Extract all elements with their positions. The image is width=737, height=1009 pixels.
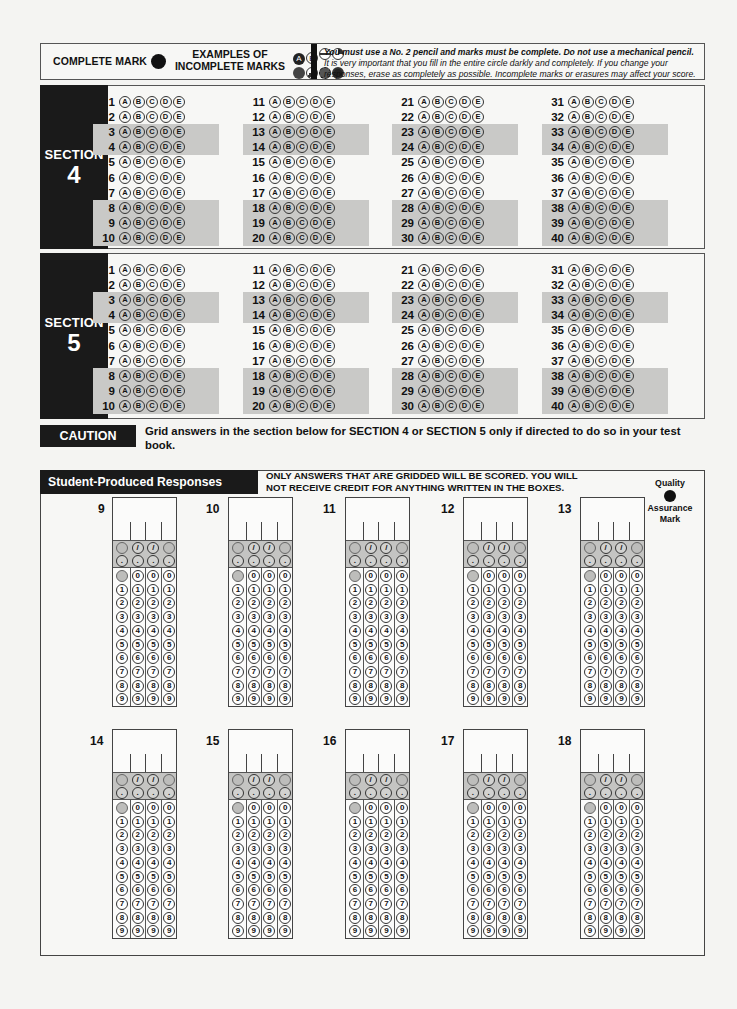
- digit-bubble-7[interactable]: 7: [467, 666, 479, 678]
- answer-bubble-b[interactable]: B: [582, 217, 594, 229]
- answer-bubble-a[interactable]: A: [269, 400, 281, 412]
- answer-bubble-e[interactable]: E: [472, 324, 484, 336]
- answer-bubble-d[interactable]: D: [310, 217, 322, 229]
- digit-bubble-9[interactable]: 9: [514, 925, 526, 937]
- answer-bubble-c[interactable]: C: [146, 294, 158, 306]
- digit-bubble-6[interactable]: 6: [349, 652, 361, 664]
- answer-bubble-d[interactable]: D: [609, 355, 621, 367]
- digit-bubble-0[interactable]: 0: [147, 802, 159, 814]
- answer-bubble-c[interactable]: C: [296, 355, 308, 367]
- digit-bubble-7[interactable]: 7: [132, 898, 144, 910]
- answer-bubble-b[interactable]: B: [582, 126, 594, 138]
- digit-bubble-2[interactable]: 2: [116, 597, 128, 609]
- digit-bubble-4[interactable]: 4: [584, 857, 596, 869]
- digit-bubble-5[interactable]: 5: [396, 871, 408, 883]
- digit-bubble-0[interactable]: 0: [365, 802, 377, 814]
- digit-bubble-8[interactable]: 8: [365, 912, 377, 924]
- answer-bubble-a[interactable]: A: [269, 324, 281, 336]
- digit-bubble-3[interactable]: 3: [279, 611, 291, 623]
- fraction-bubble[interactable]: /: [365, 542, 377, 554]
- digit-bubble-3[interactable]: 3: [498, 843, 510, 855]
- digit-bubble-1[interactable]: 1: [263, 816, 275, 828]
- answer-bubble-e[interactable]: E: [472, 355, 484, 367]
- digit-bubble-3[interactable]: 3: [147, 843, 159, 855]
- answer-bubble-e[interactable]: E: [173, 187, 185, 199]
- digit-bubble-1[interactable]: 1: [279, 584, 291, 596]
- digit-bubble-5[interactable]: 5: [584, 639, 596, 651]
- answer-bubble-e[interactable]: E: [173, 111, 185, 123]
- digit-bubble-5[interactable]: 5: [116, 639, 128, 651]
- answer-bubble-a[interactable]: A: [568, 96, 580, 108]
- answer-bubble-c[interactable]: C: [445, 96, 457, 108]
- answer-bubble-b[interactable]: B: [283, 187, 295, 199]
- digit-bubble-2[interactable]: 2: [631, 829, 643, 841]
- answer-bubble-a[interactable]: A: [119, 324, 131, 336]
- decimal-bubble[interactable]: .: [380, 555, 392, 567]
- answer-bubble-b[interactable]: B: [283, 309, 295, 321]
- digit-bubble-2[interactable]: 2: [615, 829, 627, 841]
- fraction-bubble[interactable]: /: [248, 774, 260, 786]
- answer-bubble-c[interactable]: C: [296, 187, 308, 199]
- digit-bubble-8[interactable]: 8: [615, 912, 627, 924]
- digit-bubble-9[interactable]: 9: [584, 925, 596, 937]
- digit-bubble-9[interactable]: 9: [600, 925, 612, 937]
- answer-bubble-b[interactable]: B: [582, 309, 594, 321]
- digit-bubble-5[interactable]: 5: [232, 639, 244, 651]
- answer-bubble-b[interactable]: B: [432, 385, 444, 397]
- answer-bubble-b[interactable]: B: [283, 340, 295, 352]
- answer-bubble-e[interactable]: E: [472, 111, 484, 123]
- digit-bubble-4[interactable]: 4: [584, 625, 596, 637]
- answer-bubble-c[interactable]: C: [595, 294, 607, 306]
- answer-bubble-d[interactable]: D: [609, 294, 621, 306]
- answer-bubble-a[interactable]: A: [418, 340, 430, 352]
- digit-bubble-2[interactable]: 2: [600, 597, 612, 609]
- answer-bubble-b[interactable]: B: [133, 111, 145, 123]
- answer-bubble-e[interactable]: E: [323, 172, 335, 184]
- digit-bubble-8[interactable]: 8: [396, 680, 408, 692]
- digit-bubble-7[interactable]: 7: [631, 666, 643, 678]
- digit-bubble-5[interactable]: 5: [263, 871, 275, 883]
- digit-bubble-8[interactable]: 8: [380, 680, 392, 692]
- answer-bubble-c[interactable]: C: [296, 96, 308, 108]
- digit-bubble-4[interactable]: 4: [279, 625, 291, 637]
- answer-bubble-b[interactable]: B: [283, 217, 295, 229]
- digit-bubble-3[interactable]: 3: [349, 611, 361, 623]
- answer-bubble-e[interactable]: E: [472, 217, 484, 229]
- digit-bubble-4[interactable]: 4: [263, 857, 275, 869]
- digit-bubble-3[interactable]: 3: [380, 843, 392, 855]
- decimal-bubble[interactable]: .: [116, 555, 128, 567]
- answer-bubble-a[interactable]: A: [568, 385, 580, 397]
- digit-bubble-8[interactable]: 8: [498, 912, 510, 924]
- answer-bubble-e[interactable]: E: [622, 141, 634, 153]
- answer-bubble-c[interactable]: C: [445, 111, 457, 123]
- fraction-bubble[interactable]: /: [248, 542, 260, 554]
- digit-bubble-7[interactable]: 7: [498, 898, 510, 910]
- answer-bubble-c[interactable]: C: [595, 279, 607, 291]
- digit-bubble-1[interactable]: 1: [584, 816, 596, 828]
- digit-bubble-1[interactable]: 1: [163, 584, 175, 596]
- digit-bubble-4[interactable]: 4: [467, 857, 479, 869]
- answer-bubble-d[interactable]: D: [310, 264, 322, 276]
- digit-bubble-1[interactable]: 1: [132, 584, 144, 596]
- digit-bubble-5[interactable]: 5: [514, 871, 526, 883]
- decimal-bubble[interactable]: .: [615, 787, 627, 799]
- answer-bubble-a[interactable]: A: [269, 126, 281, 138]
- answer-bubble-b[interactable]: B: [582, 294, 594, 306]
- answer-bubble-d[interactable]: D: [310, 96, 322, 108]
- answer-bubble-c[interactable]: C: [445, 294, 457, 306]
- digit-bubble-8[interactable]: 8: [483, 912, 495, 924]
- answer-bubble-a[interactable]: A: [418, 96, 430, 108]
- digit-bubble-6[interactable]: 6: [584, 652, 596, 664]
- answer-bubble-c[interactable]: C: [445, 309, 457, 321]
- digit-bubble-7[interactable]: 7: [279, 898, 291, 910]
- digit-bubble-2[interactable]: 2: [279, 597, 291, 609]
- answer-bubble-a[interactable]: A: [269, 355, 281, 367]
- answer-bubble-c[interactable]: C: [445, 172, 457, 184]
- answer-bubble-a[interactable]: A: [418, 126, 430, 138]
- digit-bubble-0[interactable]: 0: [263, 570, 275, 582]
- digit-bubble-3[interactable]: 3: [279, 843, 291, 855]
- answer-bubble-c[interactable]: C: [146, 324, 158, 336]
- answer-bubble-c[interactable]: C: [146, 126, 158, 138]
- digit-bubble-3[interactable]: 3: [600, 611, 612, 623]
- decimal-bubble[interactable]: .: [248, 787, 260, 799]
